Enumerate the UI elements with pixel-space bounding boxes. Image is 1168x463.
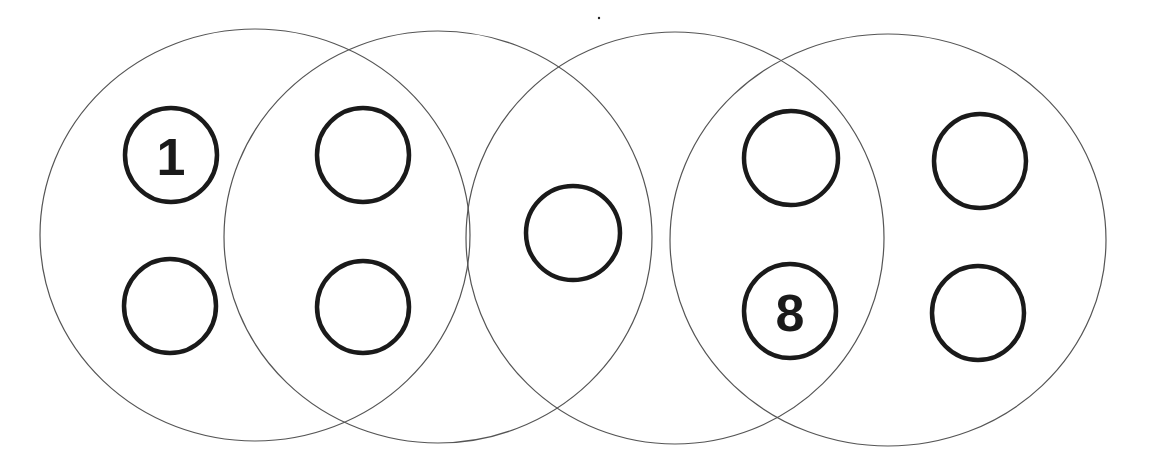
group-circles (40, 29, 1106, 446)
slot-2[interactable] (124, 259, 216, 353)
slot-9[interactable] (932, 266, 1024, 360)
group-circle-4 (670, 34, 1106, 446)
group-circle-3 (466, 32, 884, 444)
group-circle-2 (224, 31, 652, 443)
slot-6[interactable] (744, 111, 838, 205)
slot-3[interactable] (317, 108, 409, 202)
stray-dot (598, 17, 600, 19)
slot-7-label: 8 (776, 284, 805, 342)
slot-7[interactable]: 8 (744, 264, 836, 358)
group-circle-1 (40, 29, 470, 441)
slot-5[interactable] (526, 186, 620, 280)
slot-circles: 1 8 (124, 108, 1026, 360)
slot-1-label: 1 (157, 128, 186, 186)
slot-1[interactable]: 1 (125, 108, 217, 202)
slot-4[interactable] (317, 261, 409, 353)
slot-8[interactable] (934, 114, 1026, 208)
overlapping-circles-diagram: 1 8 (0, 0, 1168, 463)
